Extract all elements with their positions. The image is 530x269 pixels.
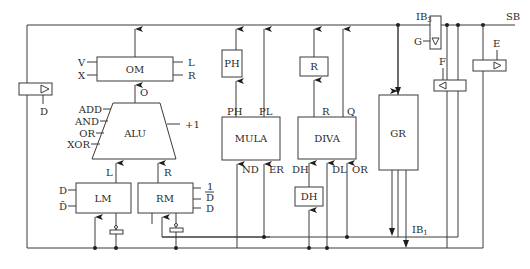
system-bus-sb: SB	[27, 11, 520, 25]
lm-control-d: D	[59, 185, 67, 196]
alu-input-r: R	[164, 167, 172, 178]
lm-block: LM D D̄	[59, 183, 131, 250]
rm-control-d: D	[206, 203, 214, 214]
om-label: OM	[126, 64, 144, 75]
processor-block-diagram: SB IB1 D OM V X L R O ALU	[0, 0, 530, 269]
ib3-label: IB3	[416, 11, 432, 24]
om-input-l: L	[188, 57, 195, 68]
diva-input-dh: DH	[292, 164, 309, 175]
alu-block: ALU ADD AND OR XOR +1 L R	[67, 103, 199, 183]
om-input-v: V	[77, 57, 86, 68]
diva-output-r: R	[322, 106, 330, 117]
sb-label: SB	[506, 11, 520, 22]
mula-output-ph: PH	[227, 106, 243, 117]
mula-label: MULA	[235, 133, 268, 144]
junction-dot	[114, 246, 118, 250]
rm-control-1: 1	[207, 181, 213, 192]
ib1-label: IB1	[412, 224, 428, 237]
junction-dot	[445, 23, 449, 27]
ph-label: PH	[224, 58, 240, 69]
diva-output-q: Q	[347, 106, 355, 117]
gr-label: GR	[390, 128, 406, 139]
mula-block: PH PH PL MULA ND ER	[222, 29, 284, 248]
alu-label: ALU	[123, 128, 146, 139]
junction-dot	[345, 235, 349, 239]
arrow-down-icon	[389, 228, 395, 236]
alu-input-l: L	[106, 167, 113, 178]
register-latch-icon	[110, 230, 123, 234]
alu-control-add: ADD	[78, 104, 102, 115]
f-control-label: F	[439, 56, 446, 67]
alu-control-plus1: +1	[185, 119, 200, 130]
e-control-label: E	[493, 38, 500, 49]
dh-label: DH	[301, 191, 318, 202]
lm-control-d-bar: D̄	[59, 201, 67, 212]
register-latch-icon	[170, 228, 183, 232]
mula-input-er: ER	[269, 164, 284, 175]
alu-control-and: AND	[74, 116, 99, 127]
r-label: R	[310, 61, 318, 72]
om-input-x: X	[78, 70, 86, 81]
diva-input-or: OR	[352, 164, 368, 175]
rm-control-d-over: D	[206, 192, 214, 203]
om-input-r: R	[188, 70, 196, 81]
buffer-control-label: D	[40, 106, 48, 117]
junction-dot	[174, 246, 178, 250]
junction-dot	[456, 23, 460, 27]
mula-output-pl: PL	[259, 106, 273, 117]
ib3-buffer: G IB3	[414, 11, 441, 49]
arrow-down-icon	[395, 87, 401, 95]
mula-input-nd: ND	[242, 164, 259, 175]
alu-control-xor: XOR	[67, 139, 90, 150]
junction-dot	[93, 246, 97, 250]
junction-dot	[307, 246, 311, 250]
ib3-control-g: G	[414, 36, 422, 47]
alu-control-or: OR	[79, 128, 95, 139]
lm-label: LM	[95, 193, 112, 204]
arrow-down-icon	[403, 240, 409, 248]
rm-label: RM	[156, 193, 174, 204]
rm-block: RM 1 D D	[138, 181, 270, 250]
e-buffer: E	[447, 25, 506, 248]
diva-label: DIVA	[314, 133, 341, 144]
junction-dot	[325, 246, 329, 250]
left-buffer-d: D	[19, 83, 52, 117]
junction-dot	[262, 235, 266, 239]
om-input-o: O	[140, 87, 148, 98]
diva-input-dl: DL	[332, 164, 347, 175]
om-block: OM V X L R O	[77, 29, 196, 103]
diva-block: R R Q DIVA DH DL OR DH	[292, 29, 368, 250]
